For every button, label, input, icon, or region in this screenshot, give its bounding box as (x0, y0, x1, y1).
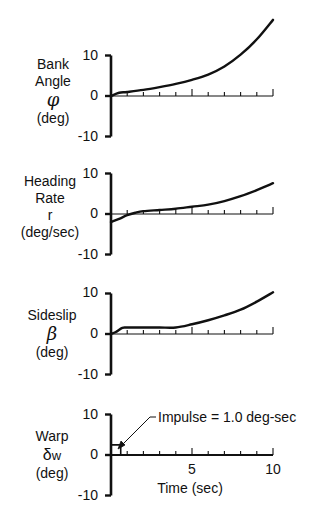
panel4-symbol: δ (43, 446, 52, 463)
panel2-units: (deg/sec) (0, 224, 100, 241)
panel2-ytick-0: 0 (68, 205, 98, 221)
xtick-5: 5 (182, 461, 202, 477)
panel4-symbol-sub: w (52, 448, 61, 463)
panel1-units: (deg) (18, 110, 88, 127)
panel3-units: (deg) (12, 344, 92, 361)
panel3-ytick-neg10: -10 (68, 366, 98, 382)
panel2-ytick-10: 10 (68, 165, 98, 181)
xtick-10: 10 (259, 461, 287, 477)
panel4-ytick-10: 10 (68, 406, 98, 422)
panel4-ytick-neg10: -10 (68, 487, 98, 503)
panel2-data-line (111, 183, 273, 222)
impulse-annotation: Impulse = 1.0 deg-sec (158, 409, 296, 425)
panel3-ylabel-line1: Sideslip (12, 307, 92, 324)
panel1-data-line (111, 20, 273, 96)
panel1-ytick-10: 10 (68, 47, 98, 63)
panel4-ylabel-line1: Warp (14, 428, 90, 445)
impulse-arrow-line (121, 417, 156, 446)
panel1-ytick-0: 0 (68, 87, 98, 103)
panel4-ytick-0: 0 (68, 446, 98, 462)
panel1-ytick-neg10: -10 (68, 128, 98, 144)
panel3-ytick-10: 10 (68, 284, 98, 300)
panel4-units: (deg) (14, 465, 90, 482)
panel2-ytick-neg10: -10 (68, 246, 98, 262)
x-axis-title: Time (sec) (140, 480, 240, 496)
panel3-ytick-0: 0 (68, 325, 98, 341)
